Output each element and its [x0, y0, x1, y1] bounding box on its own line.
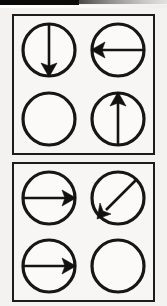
circle-empty — [14, 85, 84, 154]
scanned-figure-page — [0, 0, 167, 306]
scanner-highlight-bar — [0, 5, 167, 8]
circle-outline — [23, 93, 75, 145]
scanner-edge-bar — [0, 0, 167, 9]
bottom-panel-grid — [14, 164, 153, 300]
top-panel-grid — [14, 16, 153, 153]
circle-arrow-right — [14, 232, 84, 300]
scanner-gray-bar — [79, 0, 167, 4]
bottom-panel — [12, 162, 155, 302]
circle-arrow-down — [14, 16, 84, 85]
top-panel — [12, 14, 155, 155]
circle-empty — [84, 232, 154, 300]
circle-arrow-down-left — [84, 164, 154, 232]
circle-outline — [92, 240, 144, 292]
circle-arrow-up — [84, 85, 154, 154]
circle-arrow-right — [14, 164, 84, 232]
circle-arrow-left — [84, 16, 154, 85]
